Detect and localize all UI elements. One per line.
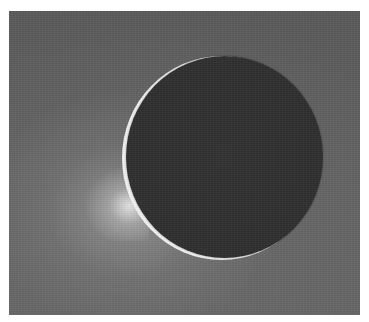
photo-frame	[9, 11, 360, 315]
moon-disk	[126, 56, 323, 258]
